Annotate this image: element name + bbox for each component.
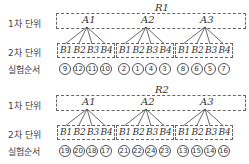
- subplot-label: B4: [219, 127, 231, 137]
- run-order: 9: [59, 63, 71, 75]
- subplot-label: B3: [146, 127, 158, 137]
- run-order: 23: [159, 145, 171, 157]
- run-order: 13: [177, 145, 189, 157]
- subplot-label: B3: [205, 45, 217, 55]
- subplot-label: B1: [119, 45, 131, 55]
- subplot-label: B4: [219, 45, 231, 55]
- subplot-label: B1: [60, 127, 72, 137]
- subplot-label: B2: [133, 45, 145, 55]
- run-order: 4: [145, 63, 157, 75]
- replicate-label: R2: [155, 84, 169, 95]
- level1-label: 1차 단위: [8, 99, 41, 112]
- run-order: 12: [73, 63, 85, 75]
- whole-plot-label: A1: [82, 14, 96, 25]
- run-order: 7: [218, 63, 230, 75]
- subplot-label: B2: [192, 127, 204, 137]
- whole-plot-label: A2: [141, 14, 155, 25]
- run-order: 11: [86, 63, 98, 75]
- run-order: 5: [204, 63, 216, 75]
- whole-plot-label: A2: [141, 96, 155, 107]
- run-order: 10: [100, 63, 112, 75]
- run-order: 3: [159, 63, 171, 75]
- subplot-label: B2: [74, 127, 86, 137]
- whole-plot-label: A3: [200, 14, 214, 25]
- run-order: 21: [118, 145, 130, 157]
- level2-label: 2차 단위: [8, 46, 41, 59]
- run-order: 22: [132, 145, 144, 157]
- run-order: 2: [118, 63, 130, 75]
- subplot-label: B2: [192, 45, 204, 55]
- subplot-label: B4: [101, 127, 113, 137]
- replicate-label: R1: [155, 2, 169, 13]
- subplot-label: B1: [178, 45, 190, 55]
- run-order: 1: [132, 63, 144, 75]
- subplot-label: B4: [160, 127, 172, 137]
- run-order: 18: [86, 145, 98, 157]
- order-label: 실험순서: [8, 63, 40, 76]
- run-order: 16: [218, 145, 230, 157]
- whole-plot-label: A1: [82, 96, 96, 107]
- level1-label: 1차 단위: [8, 17, 41, 30]
- subplot-label: B1: [60, 45, 72, 55]
- subplot-label: B4: [101, 45, 113, 55]
- subplot-label: B2: [74, 45, 86, 55]
- subplot-label: B3: [146, 45, 158, 55]
- subplot-label: B1: [178, 127, 190, 137]
- run-order: 14: [204, 145, 216, 157]
- subplot-label: B3: [87, 45, 99, 55]
- order-label: 실험순서: [8, 145, 40, 158]
- run-order: 19: [59, 145, 71, 157]
- run-order: 6: [191, 63, 203, 75]
- whole-plot-label: A3: [200, 96, 214, 107]
- run-order: 24: [145, 145, 157, 157]
- subplot-label: B3: [205, 127, 217, 137]
- subplot-label: B2: [133, 127, 145, 137]
- subplot-label: B4: [160, 45, 172, 55]
- subplot-label: B3: [87, 127, 99, 137]
- run-order: 17: [100, 145, 112, 157]
- run-order: 20: [73, 145, 85, 157]
- subplot-label: B1: [119, 127, 131, 137]
- run-order: 8: [177, 63, 189, 75]
- run-order: 15: [191, 145, 203, 157]
- level2-label: 2차 단위: [8, 128, 41, 141]
